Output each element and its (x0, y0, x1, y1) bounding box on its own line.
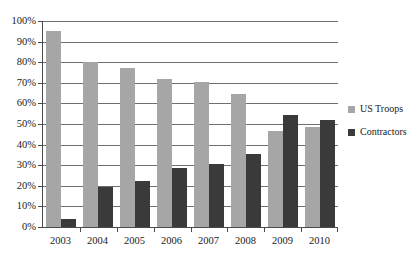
bar-us-troops-2003 (46, 31, 61, 227)
bar-group-2006 (154, 21, 191, 227)
bar-us-troops-2010 (305, 127, 320, 227)
x-axis-label-2010: 2010 (301, 232, 338, 252)
bar-contractors-2010 (320, 120, 335, 227)
x-axis-label-2004: 2004 (79, 232, 116, 252)
y-axis-tick-label: 20% (17, 181, 36, 192)
y-axis-tick-label: 30% (17, 160, 36, 171)
x-axis-label-2005: 2005 (116, 232, 153, 252)
bars-layer (43, 21, 338, 227)
legend: US TroopsContractors (348, 104, 418, 150)
x-axis-label-2007: 2007 (190, 232, 227, 252)
bar-us-troops-2008 (231, 94, 246, 227)
bar-group-2005 (117, 21, 154, 227)
bar-chart: 0%10%20%30%40%50%60%70%80%90%100% 200320… (0, 0, 420, 258)
x-axis-label-2009: 2009 (264, 232, 301, 252)
x-axis-labels: 20032004200520062007200820092010 (42, 232, 338, 252)
y-axis-tick-label: 90% (17, 36, 36, 47)
y-axis-tick-label: 40% (17, 139, 36, 150)
bar-group-2008 (227, 21, 264, 227)
y-axis-tick-label: 100% (12, 16, 37, 27)
bar-contractors-2004 (98, 187, 113, 227)
plot-area: 0%10%20%30%40%50%60%70%80%90%100% (42, 21, 338, 228)
bar-contractors-2007 (209, 164, 224, 227)
x-axis-label-2008: 2008 (227, 232, 264, 252)
bar-group-2003 (43, 21, 80, 227)
y-axis-tick (38, 227, 43, 228)
bar-group-2010 (301, 21, 338, 227)
bar-contractors-2005 (135, 181, 150, 227)
bar-contractors-2006 (172, 168, 187, 227)
legend-label: Contractors (360, 127, 407, 137)
y-axis-tick-label: 10% (17, 201, 36, 212)
bar-contractors-2008 (246, 154, 261, 227)
legend-swatch-icon (348, 129, 355, 136)
y-axis-tick-label: 0% (22, 222, 36, 233)
bar-us-troops-2005 (120, 68, 135, 227)
bar-group-2004 (80, 21, 117, 227)
legend-item-contractors[interactable]: Contractors (348, 127, 418, 137)
y-axis-tick-label: 60% (17, 98, 36, 109)
legend-swatch-icon (348, 106, 355, 113)
bar-group-2009 (264, 21, 301, 227)
x-axis-label-2006: 2006 (153, 232, 190, 252)
y-axis-tick-label: 50% (17, 119, 36, 130)
bar-group-2007 (191, 21, 228, 227)
bar-contractors-2003 (61, 219, 76, 227)
legend-label: US Troops (360, 104, 403, 114)
bar-us-troops-2006 (157, 79, 172, 227)
bar-us-troops-2007 (194, 82, 209, 227)
bar-us-troops-2009 (268, 131, 283, 227)
bar-us-troops-2004 (83, 62, 98, 227)
y-axis-tick-label: 70% (17, 78, 36, 89)
legend-item-us-troops[interactable]: US Troops (348, 104, 418, 114)
y-axis-tick-label: 80% (17, 57, 36, 68)
bar-contractors-2009 (283, 115, 298, 227)
x-axis-label-2003: 2003 (42, 232, 79, 252)
